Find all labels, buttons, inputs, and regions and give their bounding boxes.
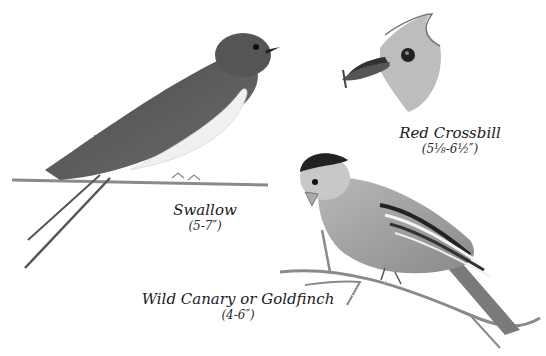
bird-name: Wild Canary or Goldfinch — [138, 290, 338, 308]
bird-size: (5⅛-6½″) — [395, 142, 505, 157]
bird-size: (4-6″) — [138, 308, 338, 323]
swallow-caption: Swallow (5-7″) — [160, 201, 250, 234]
red-crossbill-drawing — [342, 14, 441, 112]
bird-name: Swallow — [160, 201, 250, 219]
goldfinch-caption: Wild Canary or Goldfinch (4-6″) — [138, 290, 338, 323]
red-crossbill-caption: Red Crossbill (5⅛-6½″) — [395, 124, 505, 157]
bird-illustration: Swallow (5-7″) Red Crossbill (5⅛-6½″) Wi… — [0, 0, 546, 356]
bird-name: Red Crossbill — [395, 124, 505, 142]
bird-size: (5-7″) — [160, 219, 250, 234]
swallow-perch — [12, 180, 268, 185]
